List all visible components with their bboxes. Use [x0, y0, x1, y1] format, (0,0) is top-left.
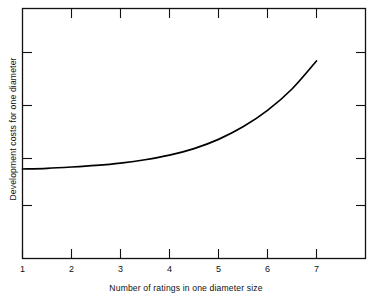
x-axis-title: Number of ratings in one diameter size	[0, 283, 372, 293]
x-tick-label-1: 1	[14, 264, 32, 274]
x-tick-label-3: 3	[112, 264, 130, 274]
chart-figure: 1 2 3 4 5 6 7 Number of ratings in one d…	[0, 0, 372, 297]
y-axis-title-wrapper: Development costs for one diameter	[0, 0, 14, 260]
x-tick-label-6: 6	[259, 264, 277, 274]
x-tick-label-7: 7	[308, 264, 326, 274]
axes-frame	[23, 9, 366, 259]
y-axis-title: Development costs for one diameter	[8, 4, 18, 254]
x-tick-label-2: 2	[63, 264, 81, 274]
x-tick-label-5: 5	[210, 264, 228, 274]
plot-area	[0, 0, 372, 297]
x-tick-label-4: 4	[161, 264, 179, 274]
